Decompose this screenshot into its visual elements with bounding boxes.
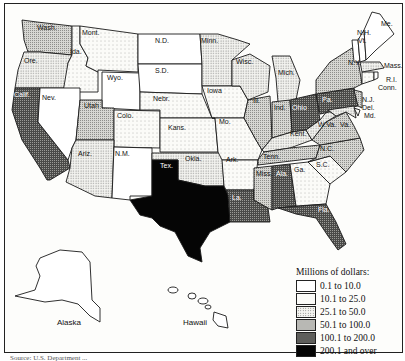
label-wva: W.Va. bbox=[318, 121, 336, 128]
label-va: Va. bbox=[340, 121, 350, 128]
legend-item: 25.1 to 50.0 bbox=[296, 305, 400, 318]
label-ny: N.Y. bbox=[348, 59, 361, 66]
label-colo: Colo. bbox=[117, 112, 133, 119]
legend-label: 10.1 to 25.0 bbox=[320, 294, 365, 304]
label-minn: Minn. bbox=[201, 37, 218, 44]
legend-label: 25.1 to 50.0 bbox=[320, 307, 365, 317]
label-ala: Ala. bbox=[276, 170, 288, 177]
label-del: Del. bbox=[362, 104, 375, 111]
source-note: Source: U.S. Department ... bbox=[10, 354, 87, 361]
label-vt: Vt. bbox=[358, 37, 367, 44]
label-ohio: Ohio bbox=[292, 104, 307, 111]
label-ida: Ida. bbox=[70, 48, 82, 55]
legend-item: 200.1 and over bbox=[296, 344, 400, 357]
legend-label: 200.1 and over bbox=[320, 346, 377, 356]
state-fla bbox=[278, 204, 346, 250]
label-ri: R.I. bbox=[386, 76, 397, 83]
label-nc: N.C. bbox=[320, 145, 334, 152]
state-alaska bbox=[15, 250, 100, 322]
label-calif: Calif. bbox=[14, 91, 30, 98]
label-tenn: Tenn. bbox=[263, 153, 280, 160]
legend-item: 0.1 to 10.0 bbox=[296, 279, 400, 292]
legend-title: Millions of dollars: bbox=[296, 267, 400, 277]
label-nm: N.M. bbox=[115, 150, 130, 157]
legend-label: 100.1 to 200.0 bbox=[320, 333, 375, 343]
label-ore: Ore. bbox=[24, 57, 38, 64]
legend-swatch-sparse-dots bbox=[296, 293, 316, 305]
legend-item: 50.1 to 100.0 bbox=[296, 318, 400, 331]
state-mich bbox=[272, 56, 300, 102]
label-kans: Kans. bbox=[168, 124, 186, 131]
label-mich: Mich. bbox=[278, 69, 295, 76]
label-nev: Nev. bbox=[42, 94, 56, 101]
label-la: La. bbox=[232, 194, 242, 201]
state-ark bbox=[222, 160, 258, 190]
label-md: Md. bbox=[364, 112, 376, 119]
label-ariz: Ariz. bbox=[78, 150, 92, 157]
label-ark: Ark. bbox=[226, 156, 239, 163]
label-nd: N.D. bbox=[155, 37, 169, 44]
state-sd bbox=[138, 64, 202, 94]
label-wyo: Wyo. bbox=[107, 74, 123, 82]
label-wisc: Wisc. bbox=[236, 58, 253, 65]
legend-label: 50.1 to 100.0 bbox=[320, 320, 370, 330]
label-ill: Ill. bbox=[253, 97, 260, 104]
legend-item: 10.1 to 25.0 bbox=[296, 292, 400, 305]
label-okla: Okla. bbox=[185, 155, 201, 162]
legend-swatch-blank bbox=[296, 280, 316, 292]
label-kent: Kent. bbox=[290, 130, 306, 137]
label-sd: S.D. bbox=[155, 67, 169, 74]
label-fla: Fla. bbox=[318, 206, 330, 213]
label-mo: Mo. bbox=[219, 118, 231, 125]
label-iowa: Iowa bbox=[207, 87, 222, 94]
state-ariz bbox=[66, 140, 114, 198]
legend-item: 100.1 to 200.0 bbox=[296, 331, 400, 344]
label-mass: Mass. bbox=[384, 62, 403, 69]
label-ind: Ind. bbox=[274, 104, 286, 111]
label-miss: Miss. bbox=[256, 170, 272, 177]
label-conn: Conn. bbox=[378, 84, 397, 91]
state-conn bbox=[362, 72, 374, 84]
label-me: Me. bbox=[381, 20, 393, 27]
label-alaska: Alaska bbox=[57, 318, 82, 327]
legend-swatch-dark-crosshatch bbox=[296, 332, 316, 344]
label-nebr: Nebr. bbox=[153, 95, 170, 102]
label-utah: Utah bbox=[84, 102, 99, 109]
legend-swatch-solid bbox=[296, 345, 316, 357]
label-mont: Mont. bbox=[82, 29, 100, 36]
label-tex: Tex. bbox=[160, 162, 173, 169]
label-nh: N.H. bbox=[357, 29, 371, 36]
state-nd bbox=[138, 34, 202, 64]
state-ri bbox=[374, 72, 378, 80]
legend-swatch-dense-dots bbox=[296, 306, 316, 318]
label-wash: Wash. bbox=[37, 24, 57, 31]
legend-label: 0.1 to 10.0 bbox=[320, 281, 361, 291]
label-hawaii: Hawaii bbox=[183, 318, 207, 327]
label-nj: N.J. bbox=[362, 96, 375, 103]
label-sc: S.C. bbox=[316, 161, 330, 168]
state-mass bbox=[360, 62, 384, 72]
legend: Millions of dollars: 0.1 to 10.0 10.1 to… bbox=[296, 267, 400, 357]
label-ga: Ga. bbox=[294, 166, 305, 173]
legend-swatch-light-crosshatch bbox=[296, 319, 316, 331]
label-pa: Pa. bbox=[322, 96, 333, 103]
